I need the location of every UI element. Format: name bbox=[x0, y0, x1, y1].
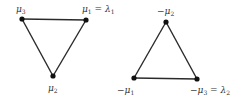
label-neg-mu1: −μ1 bbox=[117, 85, 134, 98]
left-triangle bbox=[19, 16, 88, 78]
vertex-mu1 bbox=[83, 17, 88, 22]
label-neg-mu3-eq-lambda2: −μ3 = λ2 bbox=[190, 85, 230, 98]
edge-negmu3-negmu1 bbox=[134, 78, 197, 79]
edge-mu1-mu2 bbox=[53, 20, 86, 76]
edge-mu3-mu1 bbox=[22, 19, 86, 20]
vertex-mu2 bbox=[50, 73, 55, 78]
vertex-neg-mu1 bbox=[131, 75, 136, 80]
label-neg-mu2: −μ2 bbox=[157, 6, 174, 19]
label-mu3: μ3 bbox=[16, 4, 26, 17]
vertex-neg-mu3 bbox=[194, 76, 199, 81]
right-triangle bbox=[131, 19, 199, 81]
edge-negmu1-negmu2 bbox=[134, 22, 166, 78]
label-mu2: μ2 bbox=[48, 83, 58, 96]
label-mu1-eq-lambda1: μ1 = λ1 bbox=[82, 4, 114, 17]
edge-mu2-mu3 bbox=[22, 19, 53, 76]
vertex-neg-mu2 bbox=[163, 19, 168, 24]
vertex-mu3 bbox=[19, 16, 24, 21]
edge-negmu2-negmu3 bbox=[166, 22, 197, 79]
